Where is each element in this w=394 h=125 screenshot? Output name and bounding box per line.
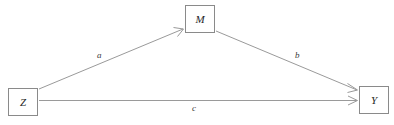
mediation-path-diagram: Z M Y a b c bbox=[0, 0, 394, 125]
edge-label-c: c bbox=[192, 104, 196, 113]
edge-label-a: a bbox=[97, 51, 102, 60]
edge-a bbox=[39, 28, 184, 90]
node-z-label: Z bbox=[20, 97, 26, 108]
node-m-label: M bbox=[195, 14, 204, 25]
node-z: Z bbox=[8, 88, 38, 116]
node-y: Y bbox=[359, 86, 389, 114]
edge-label-b: b bbox=[295, 51, 300, 60]
node-m: M bbox=[185, 5, 215, 33]
edge-b bbox=[216, 31, 358, 93]
edge-c bbox=[39, 96, 358, 105]
node-y-label: Y bbox=[371, 95, 377, 106]
